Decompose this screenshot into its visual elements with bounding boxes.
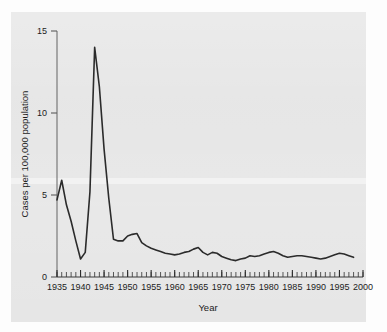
y-tick-label: 10 <box>37 108 47 118</box>
x-tick-label: 1940 <box>71 282 91 292</box>
x-axis-minor-ticks <box>57 272 363 277</box>
x-tick-label: 1960 <box>165 282 185 292</box>
x-tick-label: 1945 <box>94 282 114 292</box>
x-axis-major-ticks <box>57 270 363 277</box>
chart-figure: 051015 193519401945195019551960196519701… <box>0 0 387 332</box>
x-axis-title: Year <box>198 302 217 313</box>
x-tick-label: 1955 <box>141 282 161 292</box>
data-series-line <box>57 47 354 260</box>
x-tick-label: 1975 <box>235 282 255 292</box>
line-chart-plot: 051015 193519401945195019551960196519701… <box>0 0 387 332</box>
x-tick-label: 1950 <box>118 282 138 292</box>
x-tick-label: 1935 <box>47 282 67 292</box>
x-tick-label: 2000 <box>353 282 373 292</box>
y-tick-label: 5 <box>42 190 47 200</box>
x-tick-label: 1970 <box>212 282 232 292</box>
x-tick-label: 1985 <box>282 282 302 292</box>
y-tick-label: 15 <box>37 26 47 36</box>
x-tick-label: 1980 <box>259 282 279 292</box>
x-axis-tick-labels: 1935194019451950195519601965197019751980… <box>47 282 373 292</box>
y-axis-ticks <box>51 31 57 277</box>
y-tick-label: 0 <box>42 272 47 282</box>
x-tick-label: 1990 <box>306 282 326 292</box>
x-tick-label: 1995 <box>329 282 349 292</box>
y-axis-tick-labels: 051015 <box>37 26 47 282</box>
y-axis-title: Cases per 100,000 population <box>19 91 30 218</box>
x-tick-label: 1965 <box>188 282 208 292</box>
